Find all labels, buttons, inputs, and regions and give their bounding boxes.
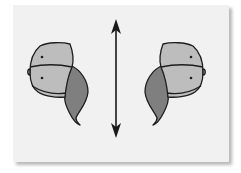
- right-shape-nub: [203, 69, 205, 75]
- left-shape-dot-bottom: [41, 77, 44, 80]
- symmetry-diagram: [0, 0, 241, 173]
- left-shape-dot-top: [41, 56, 44, 59]
- left-shape-nub: [28, 69, 30, 75]
- left-shape: [28, 43, 88, 125]
- right-shape-dot-bottom: [190, 77, 193, 80]
- double-arrow-icon: [111, 19, 121, 138]
- right-shape-dot-top: [190, 56, 193, 59]
- right-shape: [145, 43, 205, 125]
